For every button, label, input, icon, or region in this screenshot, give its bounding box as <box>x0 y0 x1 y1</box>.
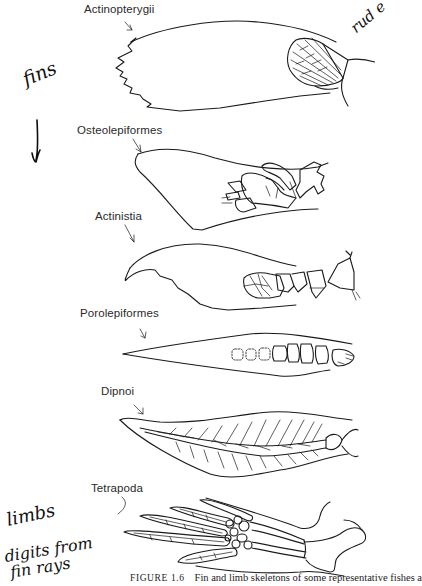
taxon-label-dipnoi: Dipnoi <box>101 385 134 397</box>
arrow-dipnoi <box>134 405 143 414</box>
arrow-porolepiformes <box>140 329 146 338</box>
dipnoi-fin-drawing <box>120 412 358 477</box>
taxon-label-actinistia: Actinistia <box>95 210 142 222</box>
taxon-label-osteolepiformes: Osteolepiformes <box>77 124 162 136</box>
arrow-tetrapoda <box>118 497 125 514</box>
handwritten-down-arrow <box>32 120 40 162</box>
caption-number: FIGURE 1.6 <box>130 573 185 583</box>
actinistia-fin-drawing <box>125 244 360 310</box>
actinopterygii-fin-drawing <box>116 21 375 111</box>
arrow-actinopterygii <box>125 22 132 30</box>
tetrapoda-limb-drawing <box>124 498 366 576</box>
porolepiformes-fin-drawing <box>123 333 354 376</box>
taxon-label-tetrapoda: Tetrapoda <box>91 482 143 494</box>
osteolepiformes-fin-drawing <box>135 149 328 230</box>
caption-text: Fin and limb skeletons of some represent… <box>195 572 422 583</box>
figure-caption: FIGURE 1.6Fin and limb skeletons of some… <box>130 572 422 583</box>
taxon-label-porolepiformes: Porolepiformes <box>80 307 159 319</box>
taxon-label-actinopterygii: Actinopterygii <box>84 3 154 15</box>
arrow-actinistia <box>125 225 134 242</box>
arrow-osteolepiformes <box>133 139 141 152</box>
